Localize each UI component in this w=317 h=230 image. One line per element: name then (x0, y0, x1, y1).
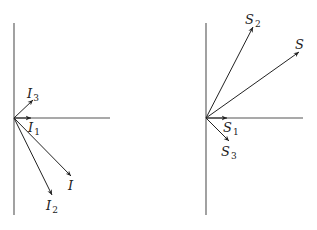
vector-label-i: I (67, 178, 74, 193)
vector-label-s3: S3 (221, 144, 237, 161)
power-phasor-diagram: S1S3S2S (206, 12, 304, 215)
current-phasor-diagram: I1I3II2 (14, 23, 110, 215)
vector-label-i3: I3 (26, 86, 39, 103)
vector-label-i2: I2 (45, 198, 58, 215)
vector-label-s2: S2 (245, 12, 261, 29)
vector-i3 (14, 100, 33, 118)
vector-i (14, 118, 71, 176)
vector-label-i1: I1 (27, 120, 40, 137)
vector-s (206, 52, 299, 118)
phasor-diagrams: I1I3II2 S1S3S2S (0, 0, 317, 230)
vector-label-s1: S1 (223, 120, 239, 137)
vector-s2 (206, 27, 253, 118)
vector-label-s: S (295, 37, 304, 52)
